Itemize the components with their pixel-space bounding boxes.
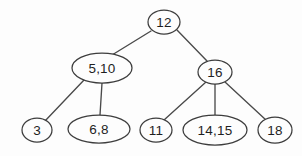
- node-label-n11: 11: [149, 123, 163, 138]
- tree-node-n68[interactable]: 6,8: [68, 115, 130, 143]
- node-label-n3: 3: [33, 123, 41, 138]
- tree-nodes: 125,101636,81114,1518: [22, 10, 292, 145]
- node-label-root: 12: [156, 15, 171, 30]
- tree-node-n16[interactable]: 16: [198, 60, 232, 84]
- tree-node-n11[interactable]: 11: [140, 118, 172, 142]
- tree-node-n1415[interactable]: 14,15: [183, 115, 247, 145]
- tree-canvas: 125,101636,81114,1518: [0, 0, 302, 156]
- tree-edge-n510-n68: [100, 83, 102, 115]
- b-tree-diagram: 125,101636,81114,1518: [0, 0, 302, 156]
- node-label-n16: 16: [207, 65, 222, 80]
- tree-node-n18[interactable]: 18: [258, 117, 292, 143]
- node-label-n68: 6,8: [89, 122, 108, 137]
- node-label-n18: 18: [267, 123, 282, 138]
- node-label-n510: 5,10: [88, 61, 115, 76]
- tree-edge-n16-n18: [225, 82, 266, 120]
- tree-node-n3[interactable]: 3: [22, 118, 52, 142]
- tree-node-root[interactable]: 12: [148, 10, 180, 34]
- tree-edge-n510-n3: [45, 80, 84, 121]
- tree-edge-n16-n11: [164, 82, 206, 120]
- tree-node-n510[interactable]: 5,10: [72, 53, 132, 83]
- tree-edge-root-n16: [177, 30, 207, 61]
- node-label-n1415: 14,15: [198, 123, 233, 138]
- tree-edge-root-n510: [112, 31, 151, 55]
